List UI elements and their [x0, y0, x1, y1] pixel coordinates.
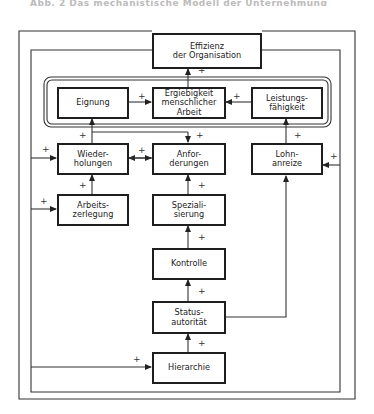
- sign-hierarchie-status: +: [198, 339, 206, 348]
- node-ergiebigkeit-label: Ergiebigkeit menschlicher Arbeit: [162, 89, 217, 118]
- node-wiederholungen-label: Wieder- holungen: [74, 150, 112, 169]
- node-eignung: Eignung: [57, 87, 129, 119]
- node-lohnanreize-label: Lohn- anreize: [272, 150, 302, 169]
- node-arbeitszerlegung-label: Arbeits- zerlegung: [73, 201, 114, 220]
- node-ergiebigkeit: Ergiebigkeit menschlicher Arbeit: [152, 87, 226, 119]
- sign-wiederholungen-eignung: +: [79, 131, 87, 140]
- sign-eignung-ergiebigkeit: +: [138, 92, 146, 101]
- node-wiederholungen: Wieder- holungen: [57, 143, 129, 175]
- sign-right-lohnanreize: +: [330, 152, 338, 161]
- node-leistungsfaehigkeit: Leistungs- fähigkeit: [251, 87, 323, 119]
- sign-left-wiederholungen: +: [42, 145, 50, 154]
- sign-left-hierarchie: +: [133, 355, 141, 364]
- node-lohnanreize: Lohn- anreize: [251, 143, 323, 175]
- sign-anf-wiederholungen: +: [138, 146, 146, 155]
- node-eignung-label: Eignung: [76, 98, 109, 108]
- node-spezialisierung-label: Speziali- sierung: [172, 201, 207, 220]
- sign-ergiebigkeit-effizienz: +: [198, 66, 206, 75]
- node-kontrolle: Kontrolle: [152, 248, 226, 280]
- node-spezialisierung: Speziali- sierung: [152, 194, 226, 226]
- node-arbeitszerlegung: Arbeits- zerlegung: [57, 194, 129, 226]
- node-statusautoritaet: Status- autorität: [152, 301, 226, 334]
- sign-arbeitszerlegung-wiederholungen: +: [79, 181, 87, 190]
- node-hierarchie: Hierarchie: [152, 352, 226, 384]
- node-anforderungen-label: Anfor- derungen: [169, 150, 208, 169]
- node-hierarchie-label: Hierarchie: [168, 363, 210, 373]
- node-statusautoritaet-label: Status- autorität: [171, 308, 207, 327]
- sign-kontrolle-spez: +: [198, 233, 206, 242]
- sign-to-anforderungen: +: [196, 131, 204, 140]
- sign-status-kontrolle: +: [198, 287, 206, 296]
- node-effizienz-label: Effizienz der Organisation: [173, 42, 242, 61]
- node-effizienz: Effizienz der Organisation: [152, 33, 262, 69]
- sign-lohn-leistung: +: [294, 131, 302, 140]
- node-anforderungen: Anfor- derungen: [152, 143, 226, 175]
- node-leistungsfaehigkeit-label: Leistungs- fähigkeit: [266, 94, 308, 113]
- node-kontrolle-label: Kontrolle: [171, 259, 207, 269]
- sign-leistung-ergiebigkeit: +: [233, 92, 241, 101]
- sign-left-arbeitszerlegung: +: [40, 197, 48, 206]
- sign-spez-anforderungen: +: [198, 181, 206, 190]
